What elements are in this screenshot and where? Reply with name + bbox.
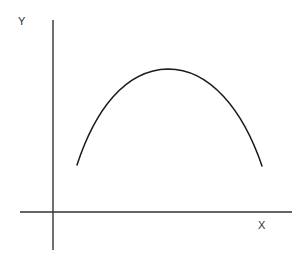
y-axis-label: Y [18,16,25,27]
diagram-canvas: Y X [0,0,305,260]
curve-inverted-u [77,69,262,166]
x-axis-label: X [258,220,265,231]
